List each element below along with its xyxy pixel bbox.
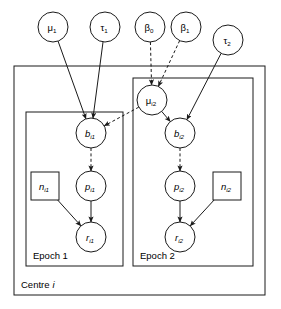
node-beta1[interactable]: β1	[171, 12, 201, 42]
edge-beta1-to-mui2	[158, 41, 179, 87]
node-mui2[interactable]: μi2	[137, 85, 167, 115]
plate-label-centre: Centrei	[21, 279, 56, 290]
node-bi1[interactable]: bi1	[76, 118, 106, 148]
node-pi1[interactable]: pi1	[76, 171, 106, 201]
node-ni1[interactable]: ni1	[31, 172, 59, 200]
edge-beta0-to-mui2	[150, 42, 151, 85]
edge-mui2-to-bi1	[104, 107, 139, 126]
edge-mui2-to-bi2	[162, 111, 171, 121]
nodes-layer: μ1τ1β0β1τ2μi2bi1bi2pi1pi2ri1ri2ni1ni2	[31, 12, 243, 252]
node-ri1[interactable]: ri1	[76, 222, 106, 252]
node-beta0[interactable]: β0	[135, 12, 165, 42]
plate-diagram-canvas: CentreiEpoch 1Epoch 2 μ1τ1β0β1τ2μi2bi1bi…	[0, 0, 281, 309]
node-bi2[interactable]: bi2	[165, 118, 195, 148]
node-ri2[interactable]: ri2	[165, 222, 195, 252]
edge-tau1-to-bi1	[93, 42, 103, 118]
node-mu1[interactable]: μ1	[38, 12, 68, 42]
edge-ni1-to-ri1	[58, 200, 81, 226]
node-pi2[interactable]: pi2	[165, 171, 195, 201]
node-tau1[interactable]: τ1	[90, 12, 120, 42]
edge-ni2-to-ri2	[190, 200, 214, 226]
plate-label-epoch1: Epoch 1	[33, 250, 68, 261]
node-ni2[interactable]: ni2	[213, 172, 241, 200]
plate-label-epoch2: Epoch 2	[140, 250, 175, 261]
node-tau2[interactable]: τ2	[213, 25, 243, 55]
diagram-svg: CentreiEpoch 1Epoch 2 μ1τ1β0β1τ2μi2bi1bi…	[0, 0, 281, 309]
edge-mu1-to-bi1	[58, 41, 86, 119]
edge-tau2-to-bi2	[187, 53, 221, 119]
